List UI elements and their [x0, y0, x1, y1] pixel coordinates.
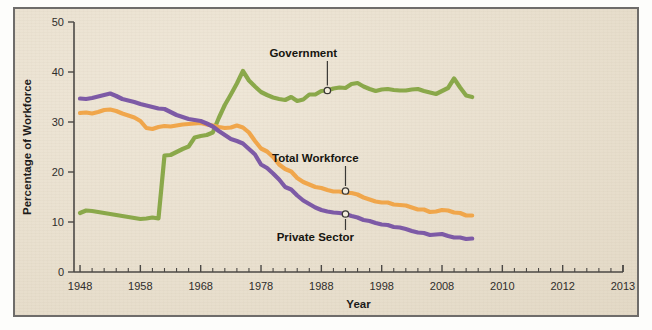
x-tick-label: 2013	[611, 280, 635, 292]
y-tick-label: 50	[52, 16, 64, 28]
series-label-private-sector: Private Sector	[277, 231, 355, 243]
series-label-government: Government	[269, 47, 337, 59]
x-tick-label: 2008	[430, 280, 454, 292]
y-tick-label: 20	[52, 166, 64, 178]
y-axis-title: Percentage of Workforce	[21, 79, 33, 215]
y-tick-label: 0	[58, 266, 64, 278]
x-tick-label: 2012	[550, 280, 574, 292]
x-tick-label: 1998	[369, 280, 393, 292]
x-tick-label: 2010	[490, 280, 514, 292]
annotation-marker	[342, 211, 348, 217]
annotation-marker	[324, 87, 330, 93]
annotation-marker	[342, 188, 348, 194]
y-tick-label: 10	[52, 216, 64, 228]
x-tick-label: 1948	[68, 280, 92, 292]
chart-frame: 0102030405019481958196819781988199820082…	[13, 7, 639, 317]
figure-container: 0102030405019481958196819781988199820082…	[0, 0, 652, 330]
line-chart: 0102030405019481958196819781988199820082…	[15, 9, 637, 315]
x-tick-label: 1978	[249, 280, 273, 292]
series-label-total-workforce: Total Workforce	[272, 152, 358, 164]
x-tick-label: 1958	[128, 280, 152, 292]
x-tick-label: 1988	[309, 280, 333, 292]
x-tick-label: 1968	[188, 280, 212, 292]
y-tick-label: 30	[52, 116, 64, 128]
chart-plot-area: 0102030405019481958196819781988199820082…	[15, 9, 637, 315]
x-axis-title: Year	[346, 298, 371, 310]
y-tick-label: 40	[52, 66, 64, 78]
series-line-government	[80, 71, 472, 219]
